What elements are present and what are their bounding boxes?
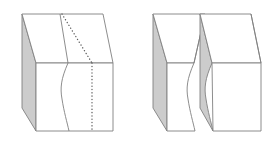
figure-root: Rectangular block with curved fracture s… xyxy=(0,0,278,143)
intact-block-top-face xyxy=(22,14,113,63)
intact-block-front-face xyxy=(36,63,113,131)
intact-block xyxy=(22,14,113,131)
separated-right-piece-front-face xyxy=(212,63,261,131)
block-fracture-diagram: Rectangular block with curved fracture s… xyxy=(0,0,278,143)
